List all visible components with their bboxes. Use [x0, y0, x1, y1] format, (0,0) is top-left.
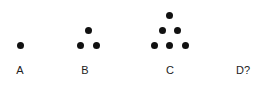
dot: [159, 27, 166, 34]
dot: [77, 42, 84, 49]
figure-label-c: C: [166, 64, 174, 76]
dot: [166, 12, 173, 19]
dot: [85, 27, 92, 34]
figure-label-a: A: [16, 64, 23, 76]
dot: [182, 42, 189, 49]
dot: [166, 42, 173, 49]
figure-label-b: B: [81, 64, 88, 76]
dot: [17, 42, 24, 49]
sequence-diagram: A B C D?: [0, 0, 256, 91]
dot: [93, 42, 100, 49]
figure-label-d: D?: [236, 64, 250, 76]
dot: [174, 27, 181, 34]
dot: [151, 42, 158, 49]
